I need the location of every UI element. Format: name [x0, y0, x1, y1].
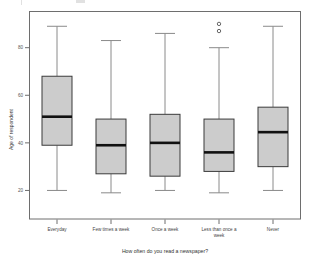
y-tick-label: 20	[18, 188, 24, 193]
scan-artifact-left	[21, 0, 22, 5]
x-category-label: Less than once a	[202, 227, 237, 232]
box-iqr	[204, 119, 234, 171]
box-iqr	[42, 76, 72, 145]
scan-artifact-top	[76, 0, 85, 3]
x-category-label: Never	[267, 227, 280, 232]
box-iqr	[150, 114, 180, 176]
boxplot-figure: 20406080 EverydayFew times a weekOnce a …	[0, 0, 311, 258]
y-tick-label: 40	[18, 141, 24, 146]
x-category-label: week	[214, 233, 225, 238]
y-tick-label: 80	[18, 45, 24, 50]
y-tick-label: 60	[18, 93, 24, 98]
box-iqr	[258, 107, 288, 166]
x-category-label: Everyday	[47, 227, 67, 232]
boxplot-svg: 20406080 EverydayFew times a weekOnce a …	[0, 0, 311, 258]
x-category-label: Once a week	[152, 227, 180, 232]
x-axis-title: How often do you read a newspaper?	[122, 248, 208, 254]
x-category-label: Few times a week	[93, 227, 130, 232]
y-axis-title: Age of respondent	[8, 109, 14, 150]
